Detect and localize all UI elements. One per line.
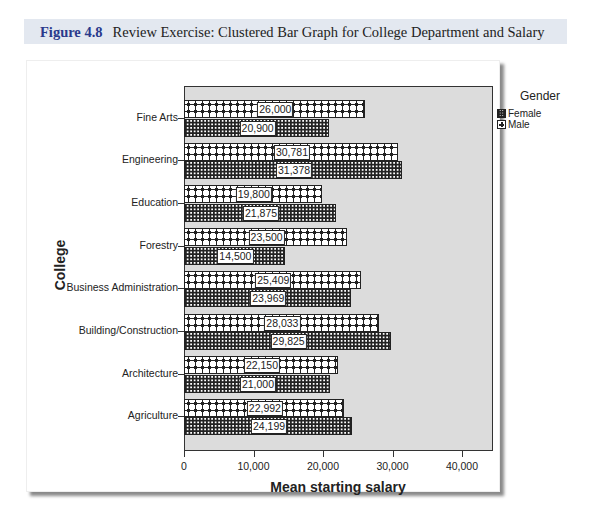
category-tick (178, 246, 184, 247)
category-tick (178, 118, 184, 119)
x-tick-label: 0 (181, 460, 187, 472)
x-tick-label: 40,000 (446, 460, 478, 472)
category-label: Architecture (122, 367, 178, 379)
legend-label-female: Female (508, 108, 541, 119)
figure-label: Figure 4.8 (40, 24, 103, 40)
category-tick (178, 374, 184, 375)
x-tick (254, 451, 255, 457)
bar-value-label: 22,992 (247, 401, 283, 416)
legend-item-female: Female (497, 108, 541, 119)
legend-title: Gender (520, 89, 560, 103)
figure-caption: Figure 4.8Review Exercise: Clustered Bar… (40, 24, 545, 41)
bar-male: 22,992 (184, 399, 344, 417)
x-tick (462, 451, 463, 457)
category-label: Business Administration (67, 281, 178, 293)
bar-value-label: 21,000 (240, 377, 276, 392)
category-tick (178, 160, 184, 161)
legend-item-male: Male (497, 119, 530, 130)
x-tick (393, 451, 394, 457)
bar-value-label: 14,500 (217, 249, 253, 264)
bar-male: 25,409 (184, 271, 361, 289)
bar-male: 26,000 (184, 100, 365, 118)
category-label: Engineering (122, 153, 178, 165)
bar-value-label: 19,800 (236, 187, 272, 202)
bar-female: 21,000 (184, 375, 330, 393)
x-tick (184, 451, 185, 457)
bar-female: 29,825 (184, 332, 391, 350)
bar-female: 20,900 (184, 119, 329, 137)
y-axis-title: College (52, 240, 68, 291)
bar-value-label: 28,033 (264, 316, 300, 331)
category-tick (178, 416, 184, 417)
plot-area: 26,00020,90030,78131,37819,80021,87523,5… (184, 86, 493, 451)
bar-value-label: 23,969 (250, 291, 286, 306)
bar-female: 23,969 (184, 289, 351, 307)
bar-value-label: 26,000 (257, 102, 293, 117)
caption-text: Review Exercise: Clustered Bar Graph for… (113, 24, 545, 40)
bar-value-label: 21,875 (243, 206, 279, 221)
bar-female: 14,500 (184, 247, 285, 265)
category-label: Forestry (139, 239, 178, 251)
bar-value-label: 20,900 (240, 121, 276, 136)
legend-label-male: Male (508, 119, 530, 130)
x-tick-label: 20,000 (307, 460, 339, 472)
bar-value-label: 30,781 (274, 145, 310, 160)
category-label: Agriculture (128, 409, 178, 421)
bar-female: 21,875 (184, 204, 336, 222)
x-axis-title: Mean starting salary (270, 479, 405, 495)
bar-male: 19,800 (184, 185, 322, 203)
bar-value-label: 25,409 (255, 273, 291, 288)
category-tick (178, 203, 184, 204)
bar-value-label: 23,500 (249, 230, 285, 245)
bar-value-label: 29,825 (271, 334, 307, 349)
category-tick (178, 331, 184, 332)
category-tick (178, 288, 184, 289)
female-pattern-swatch (497, 109, 506, 118)
bar-male: 30,781 (184, 143, 398, 161)
category-label: Fine Arts (137, 111, 178, 123)
x-tick (323, 451, 324, 457)
bar-male: 28,033 (184, 314, 379, 332)
bar-value-label: 31,378 (276, 163, 312, 178)
bar-male: 23,500 (184, 228, 347, 246)
bar-male: 22,150 (184, 356, 338, 374)
category-label: Building/Construction (79, 324, 178, 336)
bar-female: 31,378 (184, 161, 402, 179)
category-label: Education (131, 196, 178, 208)
x-tick-label: 30,000 (376, 460, 408, 472)
bar-value-label: 24,199 (251, 419, 287, 434)
male-pattern-swatch (497, 120, 506, 129)
bar-value-label: 22,150 (244, 358, 280, 373)
x-tick-label: 10,000 (237, 460, 269, 472)
bar-female: 24,199 (184, 417, 352, 435)
